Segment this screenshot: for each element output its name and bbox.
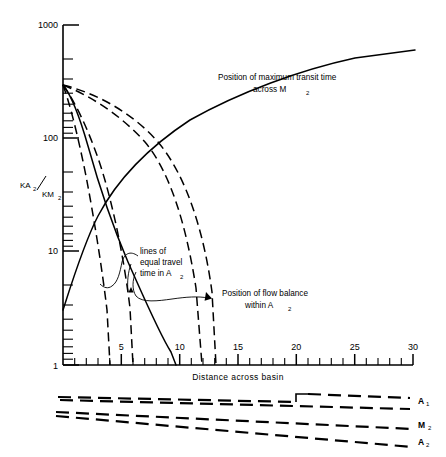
y-minor-ticks bbox=[63, 59, 73, 359]
y-axis-title-denominator: KM bbox=[42, 190, 54, 199]
chart-svg: 1000 100 10 1 KA 2 KM 2 bbox=[0, 0, 446, 457]
annotation-line: lines of bbox=[140, 247, 167, 256]
y-axis-title-denominator-sub: 2 bbox=[58, 195, 62, 201]
annotation-max-transit-time: Position of maximum transit time across … bbox=[218, 73, 337, 96]
cross-section-line-a1-upper-left bbox=[58, 397, 296, 402]
curve-flow-balance bbox=[63, 85, 176, 365]
cross-section-label-a2-sub: 2 bbox=[426, 442, 430, 448]
cross-section-label-a1-sub: 1 bbox=[426, 401, 430, 407]
annotation-line: across M bbox=[253, 85, 286, 94]
x-tick-label: 10 bbox=[175, 342, 185, 352]
curve-max-transit-time bbox=[63, 50, 415, 310]
cross-section-line-a1-upper-right bbox=[308, 394, 410, 398]
y-major-ticks bbox=[63, 25, 79, 365]
y-tick-label: 1 bbox=[53, 361, 58, 371]
y-axis-title-numerator: KA bbox=[20, 181, 31, 190]
x-major-ticks bbox=[121, 354, 413, 365]
cross-section-label-m2-sub: 2 bbox=[428, 425, 432, 431]
cross-section-label-a1: A bbox=[418, 396, 424, 406]
cross-section-label-a2: A bbox=[418, 437, 424, 447]
annotation-line: equal travel bbox=[140, 258, 183, 267]
annotation-subscript: 2 bbox=[180, 274, 184, 280]
fraction-slash bbox=[37, 176, 46, 190]
x-tick-label: 30 bbox=[408, 342, 418, 352]
y-axis-title-numerator-sub: 2 bbox=[33, 186, 37, 192]
cross-section-line-a1-lower bbox=[60, 400, 410, 409]
cross-section-diagram: A 1 M 2 A 2 bbox=[56, 394, 432, 448]
y-tick-label: 10 bbox=[48, 246, 58, 256]
annotation-line: Position of maximum transit time bbox=[218, 73, 337, 82]
annotation-line: Position of flow balance bbox=[222, 289, 308, 298]
annotation-flow-balance: Position of flow balance within A 2 bbox=[222, 289, 308, 312]
x-axis-title: Distance across basin bbox=[192, 372, 284, 382]
x-tick-label: 5 bbox=[119, 342, 124, 352]
x-tick-label: 15 bbox=[233, 342, 243, 352]
annotation-subscript: 2 bbox=[306, 90, 310, 96]
y-axis-title: KA 2 KM 2 bbox=[20, 176, 62, 201]
x-tick-label: 25 bbox=[350, 342, 360, 352]
annotation-equal-travel-time: lines of equal travel time in A 2 bbox=[140, 247, 184, 280]
curve-equal-travel-2 bbox=[63, 85, 133, 365]
cross-section-label-m2: M bbox=[418, 420, 425, 430]
annotation-line: time in A bbox=[140, 269, 172, 278]
x-tick-labels: 5 10 15 20 25 30 bbox=[119, 342, 418, 352]
annotation-line: within A bbox=[244, 301, 274, 310]
x-tick-label: 20 bbox=[291, 342, 301, 352]
cross-section-line-a2 bbox=[56, 416, 412, 447]
y-tick-label: 100 bbox=[43, 133, 58, 143]
cross-section-labels: A 1 M 2 A 2 bbox=[418, 396, 432, 448]
annotation-subscript: 2 bbox=[288, 306, 292, 312]
cross-section-step-notch bbox=[296, 394, 310, 402]
curve-equal-travel-3 bbox=[63, 85, 202, 365]
figure-container: 1000 100 10 1 KA 2 KM 2 bbox=[0, 0, 446, 457]
cross-section-line-m2 bbox=[56, 412, 412, 429]
y-tick-label: 1000 bbox=[38, 20, 58, 30]
